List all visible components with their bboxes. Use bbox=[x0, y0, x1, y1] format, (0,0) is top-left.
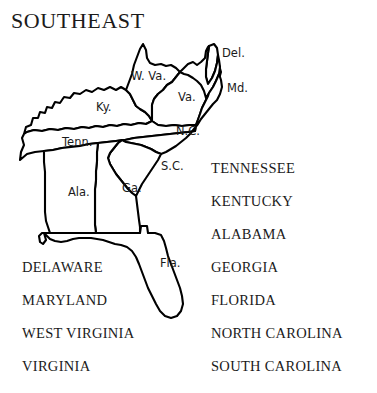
map-label-kentucky: Ky. bbox=[96, 100, 112, 114]
map-label-georgia: Ga. bbox=[122, 181, 142, 195]
list-item: GEORGIA bbox=[211, 251, 343, 284]
map-label-north-carolina: N.C. bbox=[176, 124, 200, 138]
map-label-tennessee: Tenn. bbox=[61, 135, 92, 149]
list-item: TENNESSEE bbox=[211, 152, 343, 185]
list-item: KENTUCKY bbox=[211, 185, 343, 218]
list-item: SOUTH CAROLINA bbox=[211, 350, 343, 383]
list-item: VIRGINIA bbox=[22, 350, 135, 383]
state-name-list-right: TENNESSEE KENTUCKY ALABAMA GEORGIA FLORI… bbox=[211, 152, 343, 383]
list-item: WEST VIRGINIA bbox=[22, 317, 135, 350]
state-name-list-left: DELAWARE MARYLAND WEST VIRGINIA VIRGINIA bbox=[22, 251, 135, 383]
map-label-virginia: Va. bbox=[178, 90, 196, 104]
map-label-west-virginia: W. Va. bbox=[131, 69, 166, 83]
map-label-delaware: Del. bbox=[222, 46, 245, 60]
map-label-maryland: Md. bbox=[227, 81, 248, 95]
southeast-map-page: SOUTHEAST W. Va. Del. Md. Va. Ky. Tenn. … bbox=[0, 0, 377, 393]
map-label-south-carolina: S.C. bbox=[161, 159, 184, 173]
list-item: MARYLAND bbox=[22, 284, 135, 317]
list-item: DELAWARE bbox=[22, 251, 135, 284]
map-label-alabama: Ala. bbox=[68, 185, 90, 199]
list-item: NORTH CAROLINA bbox=[211, 317, 343, 350]
map-label-florida: Fla. bbox=[160, 256, 181, 270]
list-item: FLORIDA bbox=[211, 284, 343, 317]
list-item: ALABAMA bbox=[211, 218, 343, 251]
